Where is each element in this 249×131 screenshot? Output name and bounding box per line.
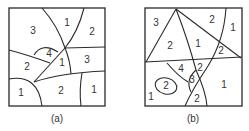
region-label: 1 bbox=[64, 17, 70, 28]
region-label: 1 bbox=[230, 22, 236, 33]
region-label: 2 bbox=[163, 80, 169, 91]
region-label: 2 bbox=[209, 14, 215, 25]
map-coloring-figure: 3 1 2 4 2 1 3 1 2 1 (a) 3 2 1 2 1 2 4 bbox=[0, 0, 249, 131]
panel-b-caption: (b) bbox=[187, 113, 199, 124]
region-label: 4 bbox=[178, 63, 184, 74]
panel-b: 3 2 1 2 1 2 4 2 3 2 1 1 2 (b) bbox=[145, 8, 242, 124]
region-label: 4 bbox=[46, 48, 52, 59]
panel-b-boundary bbox=[176, 9, 207, 106]
panel-a-boundary bbox=[42, 8, 65, 48]
panel-a-boundary bbox=[34, 71, 105, 82]
panel-b-boundary bbox=[146, 9, 176, 62]
region-label: 1 bbox=[59, 57, 65, 68]
region-label: 2 bbox=[167, 40, 173, 51]
panel-a-boundary bbox=[65, 48, 71, 74]
region-label: 2 bbox=[194, 93, 200, 104]
panel-a-boundary bbox=[9, 78, 42, 106]
region-label: 1 bbox=[91, 84, 97, 95]
region-label: 2 bbox=[218, 45, 224, 56]
panel-a-boundary bbox=[80, 73, 82, 106]
panel-a-boundary bbox=[65, 47, 105, 48]
region-label: 1 bbox=[221, 79, 227, 90]
region-label: 1 bbox=[18, 87, 24, 98]
region-label: 3 bbox=[153, 17, 159, 28]
region-label: 2 bbox=[58, 85, 64, 96]
panel-a-caption: (a) bbox=[51, 113, 63, 124]
region-label: 2 bbox=[197, 62, 203, 73]
region-label: 3 bbox=[189, 74, 195, 85]
region-label: 1 bbox=[195, 38, 201, 49]
region-label: 3 bbox=[30, 25, 36, 36]
region-label: 3 bbox=[84, 54, 90, 65]
panel-a-boundary bbox=[65, 8, 84, 48]
region-label: 2 bbox=[24, 61, 30, 72]
panel-a: 3 1 2 4 2 1 3 1 2 1 (a) bbox=[9, 8, 105, 124]
region-label: 1 bbox=[148, 91, 154, 102]
region-label: 2 bbox=[89, 26, 95, 37]
